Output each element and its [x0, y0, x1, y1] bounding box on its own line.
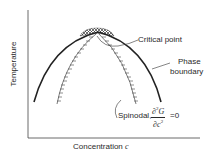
- equation-denominator: ∂c2: [151, 118, 165, 129]
- equation-numerator: ∂2G: [151, 106, 165, 118]
- spinodal-left-branch: [57, 34, 96, 104]
- spinodal-right-branch: [99, 34, 138, 104]
- phase-boundary-label-line2: boundary: [170, 68, 203, 76]
- spinodal-equation: ∂2G ∂c2: [151, 106, 165, 128]
- phase-boundary-leader: [152, 63, 170, 69]
- y-axis-label: Temperature: [9, 47, 18, 87]
- phase-diagram: [0, 0, 216, 158]
- phase-boundary-label-line1: Phase: [178, 58, 201, 66]
- equation-rhs: =0: [170, 111, 179, 120]
- spinodal-label: Spinodal,: [118, 112, 151, 120]
- x-axis-label: Concentration c: [73, 143, 129, 151]
- critical-point-label: Critical point: [138, 36, 182, 44]
